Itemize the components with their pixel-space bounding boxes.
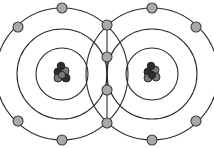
electron-left-lower [13,116,23,126]
electron-left-bottom [57,135,67,145]
shared-electron-3 [102,85,112,95]
electron-right-bottom [147,135,157,145]
shared-electron-4 [102,118,112,128]
covalent-bond-diagram [0,0,214,148]
electron-right-lower [191,116,201,126]
electron-right-top [147,3,157,13]
electron-right-upper [191,22,201,32]
shared-electron-2 [102,52,112,62]
shared-electron-1 [102,20,112,30]
right-nucleus [144,62,160,82]
electron-left-top [57,3,67,13]
electron-left-upper [13,22,23,32]
left-nucleus [54,62,70,82]
